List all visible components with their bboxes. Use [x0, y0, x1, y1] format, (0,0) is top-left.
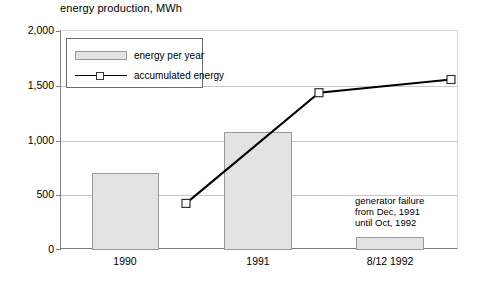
y-tick-label: 1,500: [28, 79, 54, 91]
y-tick-label: 2,000: [28, 24, 54, 36]
data-point-marker-1990[interactable]: [182, 199, 190, 207]
x-tick-label-1991: 1991: [246, 255, 269, 267]
y-tick-mark: [56, 195, 61, 196]
legend-label: energy per year: [134, 50, 204, 61]
legend-label: accumulated energy: [134, 70, 224, 81]
legend-square-marker-icon: [96, 72, 104, 80]
bar-1990[interactable]: [92, 173, 159, 250]
y-tick-mark: [56, 86, 61, 87]
y-tick-mark: [56, 249, 61, 250]
legend-swatch-icon: [75, 51, 127, 60]
annotation-line-2: from Dec, 1991: [355, 206, 431, 217]
y-tick-label: 0: [48, 243, 54, 255]
legend-item-accumulated-energy[interactable]: accumulated energy: [75, 68, 224, 82]
bar-1991[interactable]: [224, 132, 292, 250]
chart-title: energy production, MWh: [60, 2, 182, 14]
y-tick-label: 1,000: [28, 134, 54, 146]
legend-item-energy-per-year[interactable]: energy per year: [75, 48, 204, 62]
bar-8-12-1992[interactable]: [356, 237, 424, 250]
annotation-line-1: generator failure: [355, 195, 431, 206]
data-point-marker-1991[interactable]: [315, 89, 323, 97]
y-tick-mark: [56, 141, 61, 142]
chart-legend: energy per year accumulated energy: [66, 38, 203, 88]
data-point-marker-8-12-1992[interactable]: [447, 76, 455, 84]
energy-production-chart: energy production, MWh 2,000 1,500 1,000…: [0, 0, 477, 284]
x-tick-label-1990: 1990: [113, 255, 136, 267]
x-tick-label-8-12-1992: 8/12 1992: [367, 255, 414, 267]
y-tick-mark: [56, 31, 61, 32]
y-tick-label: 500: [36, 188, 54, 200]
generator-failure-note: generator failure from Dec, 1991 until O…: [355, 195, 431, 228]
annotation-line-3: until Oct, 1992: [355, 217, 431, 228]
legend-line-icon: [75, 71, 127, 80]
x-axis: 1990 1991 8/12 1992: [60, 255, 458, 273]
y-axis: 2,000 1,500 1,000 500 0: [0, 30, 54, 249]
